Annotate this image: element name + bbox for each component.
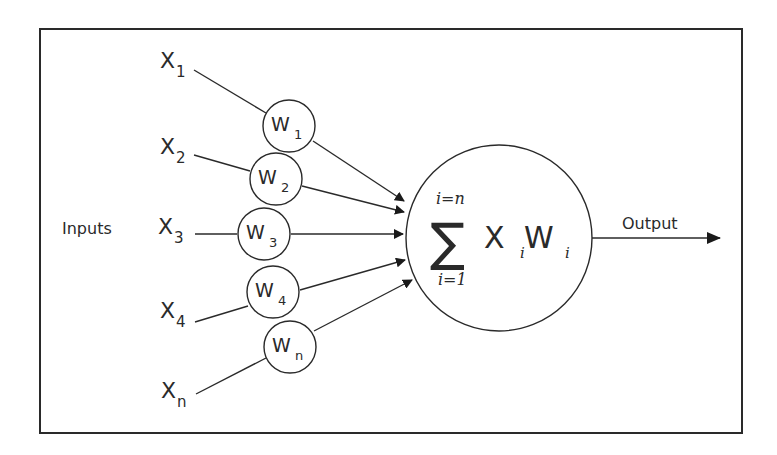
svg-text:X: X xyxy=(160,48,175,73)
svg-text:W: W xyxy=(255,279,274,301)
svg-text:n: n xyxy=(295,348,303,363)
sum-lower-limit: i=1 xyxy=(438,270,467,289)
weight-w1: W 1 xyxy=(263,100,315,152)
input-x2: X 2 xyxy=(160,134,186,167)
inputs-label: Inputs xyxy=(62,219,112,238)
svg-text:1: 1 xyxy=(294,127,302,142)
sum-upper-limit: i=n xyxy=(436,189,465,208)
svg-text:X: X xyxy=(160,134,175,159)
weight-w4: W 4 xyxy=(247,266,299,318)
weight-wn: W n xyxy=(264,321,316,373)
term-w: W xyxy=(524,220,554,255)
svg-text:4: 4 xyxy=(176,313,186,331)
svg-text:n: n xyxy=(177,393,187,411)
svg-text:W: W xyxy=(271,113,290,135)
svg-text:X: X xyxy=(161,378,176,403)
sigma-symbol: ∑ xyxy=(430,212,465,272)
output-label: Output xyxy=(622,214,678,233)
input-x1: X 1 xyxy=(160,48,186,81)
summation-node: i=n ∑ i=1 X i W i xyxy=(406,145,592,331)
weight-w3: W 3 xyxy=(238,208,290,260)
svg-text:X: X xyxy=(160,298,175,323)
neuron-diagram: Inputs X 1 X 2 X 3 X 4 X n W 1 xyxy=(0,0,777,455)
weight-w2: W 2 xyxy=(250,153,302,205)
svg-text:2: 2 xyxy=(281,180,289,195)
svg-text:W: W xyxy=(258,166,277,188)
svg-text:i: i xyxy=(565,244,570,262)
svg-text:1: 1 xyxy=(176,63,186,81)
svg-text:4: 4 xyxy=(278,293,286,308)
weight-edges xyxy=(291,141,412,331)
input-xn: X n xyxy=(161,378,187,411)
svg-text:W: W xyxy=(272,334,291,356)
term-x: X xyxy=(484,220,505,255)
svg-text:X: X xyxy=(158,214,173,239)
input-x4: X 4 xyxy=(160,298,186,331)
input-x3: X 3 xyxy=(158,214,184,247)
svg-text:2: 2 xyxy=(176,149,186,167)
svg-text:W: W xyxy=(246,221,265,243)
svg-text:3: 3 xyxy=(269,235,277,250)
svg-text:3: 3 xyxy=(174,229,184,247)
